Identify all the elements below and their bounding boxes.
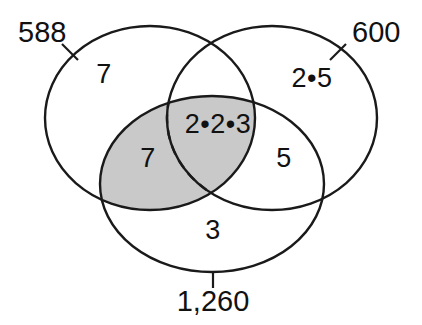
region-value-triple-center: 2•2•3 [185, 109, 251, 139]
region-value-right-only: 2•5 [292, 63, 333, 93]
region-value-left-bottom: 7 [140, 143, 156, 173]
region-value-right-bottom: 5 [276, 143, 292, 173]
region-value-left-only: 7 [96, 59, 112, 89]
region-value-bottom-only: 3 [205, 215, 221, 245]
set-label-right: 600 [352, 16, 400, 48]
set-label-bottom: 1,260 [177, 285, 250, 317]
venn-diagram-canvas: 588 600 1,260 7 2•5 2•2•3 7 5 3 [0, 0, 422, 325]
venn-diagram-figure: 588 600 1,260 7 2•5 2•2•3 7 5 3 [0, 0, 422, 325]
set-label-left: 588 [18, 16, 66, 48]
